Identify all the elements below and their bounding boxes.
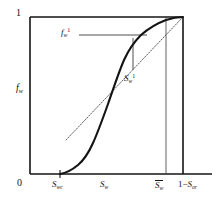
swc-label: Swc <box>52 180 63 190</box>
swc-subscript: wc <box>57 184 63 190</box>
one-minus-sor-prefix: 1− <box>178 179 188 189</box>
fractional-flow-chart: 1 0 fw fw1 Sw1 Swc Sw Sw 1−Sor <box>0 0 216 203</box>
sw-bar-label: Sw <box>155 180 163 191</box>
chart-canvas <box>0 0 216 203</box>
one-minus-sor-label: 1−Sor <box>178 180 197 190</box>
y-axis-label: fw <box>16 83 23 94</box>
fractional-flow-curve <box>60 17 183 174</box>
y-axis-max-label: 1 <box>16 8 21 18</box>
origin-label: 0 <box>17 178 22 188</box>
x-axis-label: Sw <box>100 180 108 190</box>
fw-prime-superscript: 1 <box>67 27 70 33</box>
sw-bar-subscript: w <box>160 185 164 191</box>
one-minus-sor-subscript: or <box>192 184 197 190</box>
sw-prime-superscript: 1 <box>132 73 135 79</box>
sw-prime-label: Sw1 <box>124 74 135 84</box>
y-axis-label-subscript: w <box>19 87 23 94</box>
sw-bar-overbar-group: Sw <box>155 180 163 191</box>
axis-frame <box>30 17 212 174</box>
fw-prime-label: fw1 <box>61 28 70 38</box>
x-axis-label-subscript: w <box>105 184 109 190</box>
